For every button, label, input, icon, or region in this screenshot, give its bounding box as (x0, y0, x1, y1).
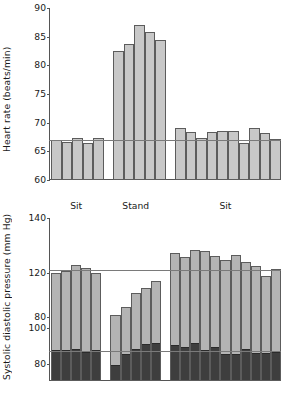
blood-pressure-group-0 (51, 218, 101, 381)
diastolic-segment (232, 354, 240, 380)
blood-pressure-y-axis-title: Systolic diastolic pressure (mm Hg) (1, 204, 12, 390)
blood-pressure-bar (231, 255, 241, 381)
blood-pressure-y-axis-line (49, 218, 50, 381)
blood-pressure-tick-label: 140 (28, 213, 46, 222)
diastolic-segment (142, 344, 150, 380)
heart-rate-bar (124, 44, 135, 180)
heart-rate-bar (134, 25, 145, 180)
heart-rate-bar (155, 40, 166, 180)
heart-rate-bar (217, 131, 228, 180)
heart-rate-bar (93, 138, 104, 180)
diastolic-segment (191, 343, 199, 380)
heart-rate-bar (51, 140, 62, 180)
diastolic-segment (52, 350, 60, 380)
blood-pressure-bar (261, 276, 271, 381)
diastolic-segment (252, 353, 260, 380)
heart-rate-bar (83, 143, 94, 180)
blood-pressure-bar (91, 273, 101, 381)
heart-rate-bar (228, 131, 239, 180)
heart-rate-bar (113, 51, 124, 180)
blood-pressure-bar (251, 266, 261, 381)
blood-pressure-tick-label: 100 (28, 323, 46, 332)
heart-rate-tick-label: 90 (34, 3, 46, 12)
figure-root: Heart rate (beats/min) 60657075808590 Sy… (0, 0, 283, 395)
diastolic-segment (201, 350, 209, 381)
phase-label-2: Sit (203, 200, 247, 211)
blood-pressure-bar (131, 293, 141, 381)
heart-rate-y-axis-line (49, 8, 50, 180)
heart-rate-bar (249, 128, 260, 180)
diastolic-reference-line (49, 351, 281, 352)
blood-pressure-y-ticks: 1401201008080 (20, 196, 46, 395)
blood-pressure-bar (241, 262, 251, 381)
heart-rate-group-2 (175, 8, 281, 180)
blood-pressure-tick-label: 80 (34, 312, 46, 321)
diastolic-segment (242, 349, 250, 380)
diastolic-segment (82, 352, 90, 380)
heart-rate-reference-line (49, 140, 281, 141)
heart-rate-bar (270, 139, 281, 180)
heart-rate-bar (62, 142, 73, 180)
diastolic-segment (152, 343, 160, 380)
phase-label-row: SitStandSit (49, 200, 281, 214)
heart-rate-tick-label: 65 (34, 147, 46, 156)
diastolic-segment (272, 352, 280, 380)
blood-pressure-tick-label: 80 (34, 359, 46, 368)
blood-pressure-bar (51, 273, 61, 381)
heart-rate-bar (239, 143, 250, 180)
diastolic-segment (221, 354, 229, 380)
heart-rate-bar (72, 138, 83, 180)
heart-rate-tick-label: 85 (34, 32, 46, 41)
diastolic-segment (72, 349, 80, 380)
diastolic-segment (62, 350, 70, 380)
heart-rate-bar (145, 32, 156, 180)
blood-pressure-bar (110, 315, 120, 381)
heart-rate-bar (196, 138, 207, 180)
heart-rate-tick-label: 60 (34, 175, 46, 184)
diastolic-segment (171, 345, 179, 380)
diastolic-segment (132, 349, 140, 380)
blood-pressure-bar (220, 260, 230, 381)
heart-rate-tick-mark (47, 180, 50, 181)
blood-pressure-group-2 (170, 218, 281, 381)
blood-pressure-bar (170, 253, 180, 381)
heart-rate-group-1 (113, 8, 166, 180)
phase-label-0: Sit (54, 200, 98, 211)
blood-pressure-bar (210, 256, 220, 381)
diastolic-segment (262, 353, 270, 380)
blood-pressure-bar (81, 268, 91, 381)
blood-pressure-bar (71, 265, 81, 381)
blood-pressure-bar (271, 269, 281, 381)
blood-pressure-group-1 (110, 218, 160, 381)
phase-label-1: Stand (114, 200, 158, 211)
blood-pressure-bar (141, 288, 151, 381)
heart-rate-y-ticks: 60657075808590 (20, 0, 46, 192)
blood-pressure-bar (121, 307, 131, 381)
blood-pressure-plot-area (49, 218, 281, 381)
diastolic-segment (111, 365, 119, 380)
heart-rate-bar (175, 128, 186, 180)
diastolic-segment (122, 354, 130, 380)
heart-rate-group-0 (51, 8, 104, 180)
blood-pressure-bar (151, 281, 161, 381)
heart-rate-tick-label: 75 (34, 89, 46, 98)
diastolic-segment (92, 350, 100, 380)
heart-rate-plot-area (49, 8, 281, 180)
blood-pressure-bar (61, 271, 71, 381)
systolic-reference-line (49, 270, 281, 271)
heart-rate-tick-label: 70 (34, 118, 46, 127)
heart-rate-panel: Heart rate (beats/min) 60657075808590 (0, 0, 283, 192)
blood-pressure-bar (180, 257, 190, 381)
blood-pressure-tick-label: 120 (28, 268, 46, 277)
heart-rate-tick-label: 80 (34, 61, 46, 70)
heart-rate-y-axis-title: Heart rate (beats/min) (1, 24, 12, 174)
blood-pressure-panel: Systolic diastolic pressure (mm Hg) 1401… (0, 196, 283, 395)
